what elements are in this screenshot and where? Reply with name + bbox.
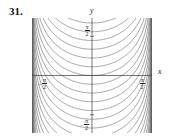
y-axis-label: y (90, 7, 94, 15)
fraction-denominator: 2 (85, 31, 90, 37)
fraction: π 2 (84, 118, 89, 131)
solution-curves-plot (32, 18, 152, 133)
x-axis-label: x (158, 68, 162, 76)
tick-sign: − (80, 122, 83, 128)
x-axis-tick-label-positive: π 2 (139, 77, 145, 90)
plot-area (32, 18, 152, 133)
exercise-number-label: 31. (9, 5, 23, 17)
axes (32, 18, 152, 133)
y-axis-tick-label-positive: π 2 (84, 24, 90, 37)
fraction-denominator: 2 (84, 125, 89, 131)
fraction-denominator: 2 (42, 84, 47, 90)
fraction-denominator: 2 (140, 84, 145, 90)
y-axis-tick-label-negative: − π 2 (80, 118, 89, 131)
fraction: π 2 (140, 77, 145, 90)
fraction: π 2 (42, 77, 47, 90)
textbook-figure: 31. y x π 2 − π 2 − π 2 (0, 0, 171, 140)
fraction: π 2 (85, 24, 90, 37)
x-axis-tick-label-negative: − π 2 (38, 77, 47, 90)
tick-sign: − (38, 81, 41, 87)
